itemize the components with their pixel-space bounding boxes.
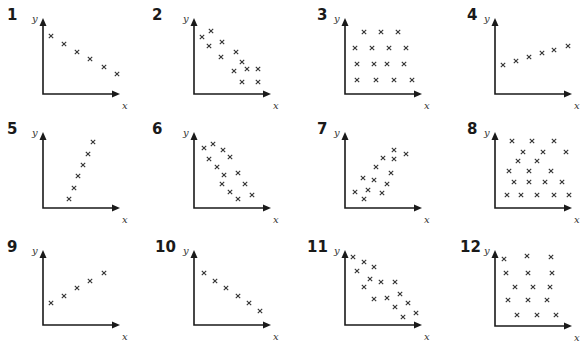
data-point-cross-icon (220, 40, 224, 44)
scatter-plot-9: 9yx (7, 238, 128, 342)
plot-number: 3 (317, 6, 327, 24)
y-axis-label: y (483, 13, 490, 24)
y-axis-label: y (333, 245, 340, 256)
data-point-cross-icon (527, 55, 531, 59)
data-point-cross-icon (62, 42, 66, 46)
data-point-cross-icon (535, 159, 539, 163)
scatter-plot-12: 12yx (460, 238, 580, 343)
data-point-cross-icon (396, 30, 400, 34)
data-point-cross-icon (374, 165, 378, 169)
data-point-cross-icon (102, 65, 106, 69)
axes (43, 254, 116, 325)
x-axis-label: x (424, 100, 430, 111)
data-point-cross-icon (531, 285, 535, 289)
data-point-cross-icon (507, 169, 511, 173)
y-axis-label: y (182, 245, 189, 256)
data-point-cross-icon (550, 271, 554, 275)
data-point-cross-icon (362, 30, 366, 34)
axes (495, 22, 568, 94)
data-point-cross-icon (525, 254, 529, 258)
data-point-cross-icon (228, 155, 232, 159)
data-point-cross-icon (548, 285, 552, 289)
x-axis-label: x (273, 331, 279, 342)
data-point-cross-icon (527, 169, 531, 173)
data-point-cross-icon (213, 279, 217, 283)
data-point-cross-icon (552, 48, 556, 52)
data-point-cross-icon (406, 301, 410, 305)
x-axis-arrow-icon (564, 91, 572, 98)
data-point-cross-icon (224, 286, 228, 290)
data-point-cross-icon (209, 29, 213, 33)
data-point-cross-icon (549, 255, 553, 259)
data-point-cross-icon (256, 67, 260, 71)
data-point-cross-icon (410, 78, 414, 82)
data-point-cross-icon (414, 311, 418, 315)
data-point-cross-icon (353, 46, 357, 50)
data-point-cross-icon (62, 294, 66, 298)
data-point-cross-icon (379, 30, 383, 34)
data-point-cross-icon (49, 301, 53, 305)
data-point-cross-icon (514, 59, 518, 63)
x-axis-label: x (574, 214, 580, 225)
x-axis-label: x (122, 100, 128, 111)
axes (495, 254, 568, 326)
plot-number: 7 (317, 120, 327, 138)
data-point-cross-icon (541, 150, 545, 154)
data-point-cross-icon (543, 180, 547, 184)
y-axis-arrow-icon (191, 250, 198, 258)
scatter-plot-6: 6yx (152, 120, 279, 225)
axes (43, 136, 116, 208)
data-point-cross-icon (366, 188, 370, 192)
y-axis-arrow-icon (40, 132, 47, 140)
data-point-cross-icon (554, 313, 558, 317)
data-point-cross-icon (86, 152, 90, 156)
x-axis-arrow-icon (263, 91, 271, 98)
x-axis-label: x (574, 100, 580, 111)
data-point-cross-icon (402, 62, 406, 66)
data-point-cross-icon (401, 315, 405, 319)
data-point-cross-icon (527, 180, 531, 184)
data-point-cross-icon (545, 298, 549, 302)
data-point-cross-icon (519, 193, 523, 197)
data-point-cross-icon (385, 182, 389, 186)
data-point-cross-icon (247, 301, 251, 305)
data-point-cross-icon (250, 193, 254, 197)
data-point-cross-icon (355, 269, 359, 273)
data-point-cross-icon (355, 62, 359, 66)
x-axis-label: x (273, 100, 279, 111)
scatter-grid: 1yx2yx3yx4yx5yx6yx7yx8yx9yx10yx11yx12yx (0, 0, 585, 346)
y-axis-label: y (182, 127, 189, 138)
scatter-plot-8: 8yx (467, 120, 580, 225)
y-axis-arrow-icon (342, 132, 349, 140)
data-point-cross-icon (535, 193, 539, 197)
data-point-cross-icon (215, 165, 219, 169)
data-point-cross-icon (372, 265, 376, 269)
data-point-cross-icon (355, 78, 359, 82)
x-axis-label: x (122, 331, 128, 342)
data-point-cross-icon (211, 142, 215, 146)
y-axis-label: y (483, 245, 490, 256)
data-point-cross-icon (258, 309, 262, 313)
x-axis-arrow-icon (414, 322, 422, 329)
data-point-cross-icon (504, 271, 508, 275)
y-axis-label: y (31, 245, 38, 256)
x-axis-arrow-icon (112, 91, 120, 98)
y-axis-arrow-icon (40, 250, 47, 258)
data-point-cross-icon (566, 44, 570, 48)
axes (43, 22, 116, 94)
data-point-cross-icon (385, 296, 389, 300)
x-axis-label: x (273, 214, 279, 225)
data-point-cross-icon (398, 292, 402, 296)
data-point-cross-icon (368, 277, 372, 281)
data-point-cross-icon (502, 257, 506, 261)
data-point-cross-icon (75, 286, 79, 290)
data-point-cross-icon (49, 34, 53, 38)
data-point-cross-icon (381, 156, 385, 160)
data-point-cross-icon (200, 35, 204, 39)
y-axis-label: y (31, 13, 38, 24)
data-point-cross-icon (505, 193, 509, 197)
data-point-cross-icon (207, 44, 211, 48)
x-axis-label: x (122, 214, 128, 225)
y-axis-label: y (483, 127, 490, 138)
data-point-cross-icon (374, 78, 378, 82)
